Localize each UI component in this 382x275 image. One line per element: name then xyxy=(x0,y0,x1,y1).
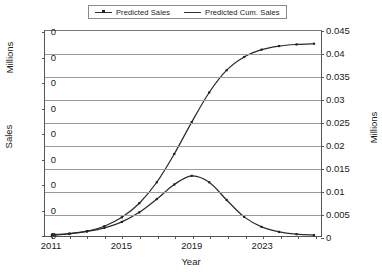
y-axis-left-tick xyxy=(42,83,45,84)
series-layer xyxy=(45,31,321,236)
x-axis-tick xyxy=(140,236,141,239)
x-axis-tick xyxy=(210,236,211,239)
gridline xyxy=(45,123,321,124)
y-axis-left-tick-label: 0 xyxy=(51,102,56,113)
x-axis-tick xyxy=(175,236,176,239)
y-axis-left-tick xyxy=(42,236,45,237)
y-axis-right-tick xyxy=(321,123,324,124)
x-axis-tick xyxy=(316,236,317,239)
plot-area xyxy=(44,30,322,237)
y-axis-right-tick xyxy=(321,238,324,239)
data-point-marker xyxy=(121,221,123,223)
legend-label-predicted-cum-sales: Predicted Cum. Sales xyxy=(205,8,280,17)
data-point-marker xyxy=(156,198,158,200)
y-axis-right-tick-label: 0.015 xyxy=(326,163,350,174)
legend-line-marker-icon xyxy=(95,8,112,16)
x-axis-tick xyxy=(87,236,88,239)
data-point-marker xyxy=(278,231,280,233)
y-axis-right-tick xyxy=(321,54,324,55)
right-axis-units-label: Millions xyxy=(368,103,379,153)
data-point-marker xyxy=(68,233,70,235)
data-point-marker xyxy=(226,199,228,201)
y-axis-right-tick-label: 0.02 xyxy=(326,140,345,151)
x-axis-tick-label: 2019 xyxy=(181,240,202,251)
chart-container: Predicted Sales Predicted Cum. Sales Mil… xyxy=(0,0,382,275)
y-axis-right-tick xyxy=(321,169,324,170)
data-point-marker xyxy=(103,225,105,227)
legend-label-predicted-sales: Predicted Sales xyxy=(116,8,170,17)
gridline xyxy=(45,215,321,216)
x-axis-tick xyxy=(122,236,123,239)
y-axis-left-tick-label: 0 xyxy=(51,51,56,62)
y-axis-left-tick-label: 0 xyxy=(51,26,56,37)
left-axis-title: Sales xyxy=(3,112,14,162)
y-axis-left-tick xyxy=(42,109,45,110)
gridline xyxy=(45,77,321,78)
x-axis-tick xyxy=(105,236,106,239)
x-axis-tick-label: 2011 xyxy=(41,240,61,251)
data-point-marker xyxy=(295,233,297,235)
x-axis-tick xyxy=(193,236,194,239)
x-axis-tick-label: 2015 xyxy=(111,240,132,251)
data-point-marker xyxy=(121,216,123,218)
gridline xyxy=(45,146,321,147)
series-line-predicted-sales xyxy=(52,176,314,235)
y-axis-right-tick-label: 0.045 xyxy=(326,25,350,36)
x-axis-tick xyxy=(263,236,264,239)
gridline xyxy=(45,169,321,170)
data-point-marker xyxy=(313,43,315,45)
y-axis-left-tick xyxy=(42,185,45,186)
x-axis-tick xyxy=(158,236,159,239)
y-axis-right-tick xyxy=(321,77,324,78)
x-axis-tick xyxy=(70,236,71,239)
y-axis-left-tick xyxy=(42,211,45,212)
y-axis-left-tick-label: 0 xyxy=(51,128,56,139)
x-axis-title: Year xyxy=(0,256,382,267)
y-axis-right-tick xyxy=(321,192,324,193)
y-axis-left-tick-label: 0 xyxy=(51,153,56,164)
y-axis-left-tick xyxy=(42,160,45,161)
x-axis-tick xyxy=(298,236,299,239)
y-axis-right-tick-label: 0.035 xyxy=(326,71,350,82)
y-axis-left-tick-label: 0 xyxy=(51,204,56,215)
data-point-marker xyxy=(86,230,88,232)
x-axis-tick xyxy=(281,236,282,239)
y-axis-right-tick-label: 0.01 xyxy=(326,186,345,197)
gridline xyxy=(45,192,321,193)
left-axis-units-label: Millions xyxy=(4,33,15,83)
y-axis-right-tick xyxy=(321,146,324,147)
data-point-marker xyxy=(243,216,245,218)
y-axis-left-tick xyxy=(42,58,45,59)
y-axis-right-tick xyxy=(321,31,324,32)
data-point-marker xyxy=(138,211,140,213)
legend-line-icon xyxy=(184,8,201,16)
y-axis-left-tick-label: 0 xyxy=(51,77,56,88)
y-axis-left-tick-label: 0 xyxy=(51,179,56,190)
data-point-marker xyxy=(191,175,193,177)
chart-legend: Predicted Sales Predicted Cum. Sales xyxy=(88,5,287,19)
gridline xyxy=(45,100,321,101)
gridline xyxy=(45,54,321,55)
data-point-marker xyxy=(278,45,280,47)
data-point-marker xyxy=(226,69,228,71)
y-axis-right-tick xyxy=(321,215,324,216)
y-axis-right-tick xyxy=(321,100,324,101)
series-line-predicted-cum-sales xyxy=(52,44,314,236)
x-axis-tick-label: 2023 xyxy=(252,240,273,251)
data-point-marker xyxy=(156,181,158,183)
y-axis-right-tick-label: 0.005 xyxy=(326,209,350,220)
y-axis-right-tick-label: 0.04 xyxy=(326,48,345,59)
data-point-marker xyxy=(243,56,245,58)
data-point-marker xyxy=(261,49,263,51)
y-axis-left-tick xyxy=(42,32,45,33)
data-point-marker xyxy=(208,181,210,183)
y-axis-right-tick-label: 0.03 xyxy=(326,94,345,105)
data-point-marker xyxy=(173,183,175,185)
legend-item-predicted-cum-sales[interactable]: Predicted Cum. Sales xyxy=(184,8,280,17)
y-axis-right-tick-label: 0 xyxy=(326,232,331,243)
legend-item-predicted-sales[interactable]: Predicted Sales xyxy=(95,8,170,17)
data-point-marker xyxy=(313,234,315,236)
x-axis-tick xyxy=(228,236,229,239)
x-axis-tick xyxy=(246,236,247,239)
y-axis-left-tick xyxy=(42,134,45,135)
